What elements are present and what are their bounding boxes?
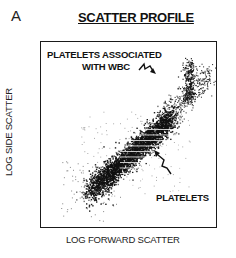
annotation-platelets: PLATELETS	[156, 192, 209, 204]
x-axis-label: LOG FORWARD SCATTER	[66, 234, 180, 245]
chart-title: SCATTER PROFILE	[78, 10, 194, 25]
annotation-wbc-line2: WITH WBC	[82, 61, 130, 73]
y-axis-label: LOG SIDE SCATTER	[3, 76, 15, 176]
annotation-wbc-line1: PLATELETS ASSOCIATED	[47, 49, 162, 61]
panel-letter: A	[11, 7, 21, 24]
